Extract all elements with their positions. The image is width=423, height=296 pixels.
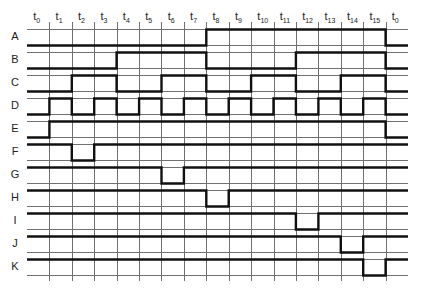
- waveform-k: [27, 260, 408, 276]
- time-label: t5: [145, 10, 152, 24]
- signal-label-i: I: [13, 214, 16, 226]
- signal-label-e: E: [11, 122, 18, 134]
- time-label: t0: [33, 10, 40, 24]
- waveform-h: [27, 191, 408, 207]
- time-label: t4: [123, 10, 130, 24]
- signal-label-j: J: [12, 237, 18, 249]
- waveform-c: [27, 76, 408, 92]
- signal-label-c: C: [11, 76, 19, 88]
- waveform-a: [27, 30, 408, 46]
- time-label: t15: [369, 10, 380, 24]
- time-label: t8: [213, 10, 220, 24]
- time-label: t3: [100, 10, 107, 24]
- signal-label-b: B: [11, 53, 18, 65]
- waveform-j: [27, 237, 408, 253]
- waveform-e: [27, 122, 408, 138]
- waveform-i: [27, 214, 408, 230]
- signal-labels: ABCDEFGHIJK: [11, 30, 20, 272]
- signal-label-h: H: [11, 191, 19, 203]
- time-label: t2: [78, 10, 85, 24]
- signal-waveforms: [27, 30, 408, 276]
- signal-label-g: G: [11, 168, 20, 180]
- time-label: t12: [302, 10, 313, 24]
- waveform-d: [27, 99, 408, 115]
- time-label: t7: [190, 10, 197, 24]
- time-label: t14: [347, 10, 358, 24]
- time-label: t6: [168, 10, 175, 24]
- waveform-f: [27, 145, 408, 161]
- timing-diagram: t0t1t2t3t4t5t6t7t8t9t10t11t12t13t14t15t0…: [0, 0, 423, 296]
- grid: [27, 22, 408, 281]
- signal-label-d: D: [11, 99, 19, 111]
- time-label: t10: [257, 10, 268, 24]
- time-label: t0: [392, 10, 399, 24]
- time-label: t11: [280, 10, 290, 24]
- waveform-b: [27, 53, 408, 69]
- time-label: t1: [56, 10, 63, 24]
- time-label: t13: [325, 10, 336, 24]
- waveform-g: [27, 168, 408, 184]
- time-label: t9: [235, 10, 242, 24]
- time-axis-labels: t0t1t2t3t4t5t6t7t8t9t10t11t12t13t14t15t0: [33, 10, 399, 24]
- signal-label-a: A: [11, 30, 19, 42]
- signal-label-f: F: [12, 145, 19, 157]
- signal-label-k: K: [11, 260, 19, 272]
